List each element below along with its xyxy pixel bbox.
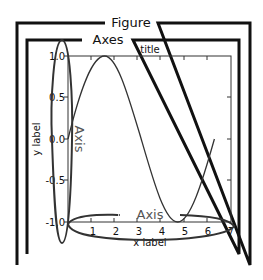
axes-label: Axes xyxy=(93,32,124,47)
figure-label: Figure xyxy=(111,15,151,30)
x-tick-label: 3 xyxy=(136,226,142,237)
y-axis-annotation-label: Axis xyxy=(72,126,87,153)
axes-title: title xyxy=(140,44,160,55)
y-tick-label: 1.0 xyxy=(49,51,65,62)
y-axis: 1.0 0.5 0.0 -0.5 -1.0 y label xyxy=(31,51,68,228)
x-tick-label: 2 xyxy=(113,226,119,237)
x-tick-label: 4 xyxy=(159,226,165,237)
anatomy-diagram: Figure Axes title 1.0 0.5 0.0 xyxy=(0,0,263,280)
y-tick-label: -0.5 xyxy=(45,175,65,186)
x-label: x label xyxy=(133,237,166,248)
y-label: y label xyxy=(31,122,42,155)
x-axis-annotation-label: Axis xyxy=(137,207,164,222)
x-tick-label: 5 xyxy=(182,226,188,237)
sine-curve xyxy=(68,56,214,222)
